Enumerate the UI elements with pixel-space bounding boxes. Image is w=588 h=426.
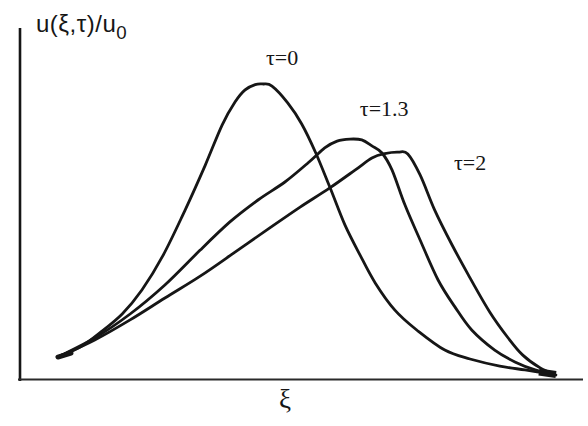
x-axis-label: ξ — [279, 384, 291, 415]
curves-start-blob — [58, 353, 71, 357]
y-axis-label: u(ξ,τ)/u0 — [36, 10, 127, 44]
curve-tau-2 — [60, 152, 556, 375]
curve-label-tau-2: τ=2 — [454, 150, 486, 176]
y-axis-label-main: u(ξ,τ)/u — [36, 10, 116, 37]
curve-label-tau-1-3: τ=1.3 — [360, 96, 409, 122]
figure-container: u(ξ,τ)/u0 τ=0 τ=1.3 τ=2 ξ — [0, 0, 588, 426]
y-axis-label-subscript: 0 — [116, 22, 127, 43]
curve-label-tau-0: τ=0 — [266, 45, 298, 71]
curves-convergence-blob — [539, 372, 556, 375]
curve-tau-0 — [60, 84, 552, 374]
